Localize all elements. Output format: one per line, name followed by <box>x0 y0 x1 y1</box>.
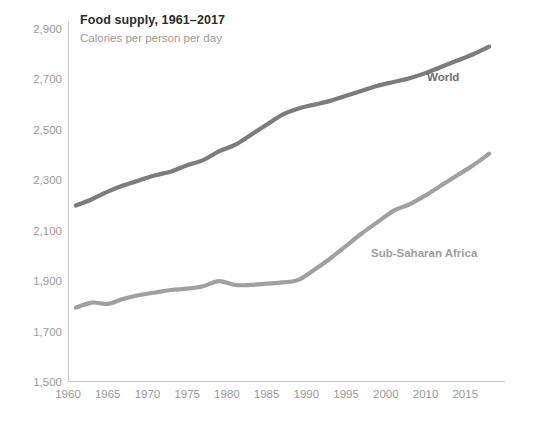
chart-container: Food supply, 1961–2017 Calories per pers… <box>0 0 540 423</box>
series-layer <box>0 0 540 423</box>
line-series-sub-saharan-africa <box>76 154 489 308</box>
series-label-world: World <box>427 71 459 83</box>
series-label-sub-saharan-africa: Sub-Saharan Africa <box>371 247 477 259</box>
